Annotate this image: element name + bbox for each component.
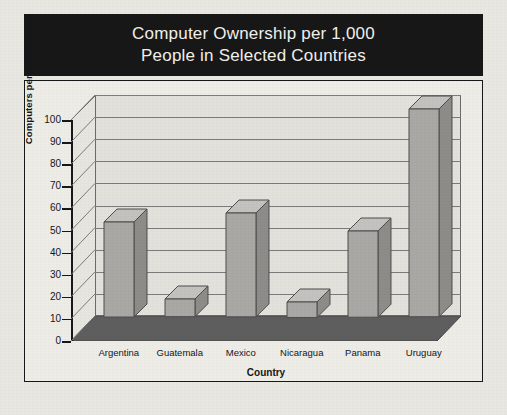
x-label-guatemala: Guatemala	[149, 347, 210, 359]
y-tick-mark	[62, 319, 71, 321]
y-tick: 70	[27, 180, 71, 192]
y-tick: 10	[27, 313, 71, 325]
chart-panel: Computers per 1,000 People 1009080706050…	[24, 80, 483, 382]
y-tick: 40	[27, 247, 71, 259]
x-axis-title: Country	[71, 367, 461, 378]
y-tick-mark	[62, 231, 71, 233]
chart-title: Computer Ownership per 1,000 People in S…	[132, 23, 375, 67]
gridline	[95, 117, 461, 118]
y-tick-mark	[62, 275, 71, 277]
chart-floor	[71, 316, 461, 341]
chart-figure: Computer Ownership per 1,000 People in S…	[24, 14, 483, 382]
y-tick-mark	[62, 186, 71, 188]
y-tick-mark	[62, 142, 71, 144]
x-label-nicaragua: Nicaragua	[271, 347, 332, 359]
y-tick-mark	[62, 164, 71, 166]
y-tick-mark	[62, 208, 71, 210]
y-tick-mark	[62, 253, 71, 255]
y-tick-label: 40	[29, 247, 61, 259]
y-tick-label: 90	[29, 136, 61, 148]
chart-title-line-2: People in Selected Countries	[132, 45, 375, 67]
y-axis-line	[71, 120, 73, 341]
gridline	[95, 139, 461, 140]
y-tick-label: 10	[29, 313, 61, 325]
y-tick: 30	[27, 269, 71, 281]
y-tick: 90	[27, 136, 71, 148]
chart-title-banner: Computer Ownership per 1,000 People in S…	[24, 14, 483, 76]
y-tick-label: 20	[29, 291, 61, 303]
y-tick: 50	[27, 225, 71, 237]
y-tick: 60	[27, 202, 71, 214]
bar-panama[interactable]	[348, 218, 378, 316]
x-label-argentina: Argentina	[88, 347, 149, 359]
bar-guatemala[interactable]	[165, 286, 195, 316]
bar-argentina[interactable]	[104, 209, 134, 316]
bar-mexico[interactable]	[226, 200, 256, 316]
y-tick: 100	[27, 114, 71, 126]
gridline	[95, 161, 461, 162]
gridline	[95, 206, 461, 207]
y-tick-label: 30	[29, 269, 61, 281]
x-label-mexico: Mexico	[210, 347, 271, 359]
y-tick-label: 70	[29, 180, 61, 192]
gridline	[95, 294, 461, 295]
y-tick-label: 80	[29, 158, 61, 170]
chart-title-line-1: Computer Ownership per 1,000	[132, 24, 375, 43]
plot-area: 1009080706050403020100 ArgentinaGuatemal…	[71, 95, 461, 367]
y-tick: 80	[27, 158, 71, 170]
gridline	[95, 183, 461, 184]
y-tick-label: 60	[29, 202, 61, 214]
y-tick-mark	[62, 120, 71, 122]
y-tick-mark	[62, 341, 71, 343]
bar-uruguay[interactable]	[409, 96, 439, 316]
gridline	[95, 95, 461, 96]
y-tick-label: 50	[29, 225, 61, 237]
x-label-panama: Panama	[332, 347, 393, 359]
y-tick: 0	[27, 335, 71, 347]
x-label-uruguay: Uruguay	[393, 347, 454, 359]
y-tick: 20	[27, 291, 71, 303]
left-depth-wall	[71, 95, 96, 341]
gridline	[95, 250, 461, 251]
gridline	[95, 272, 461, 273]
y-tick-mark	[62, 297, 71, 299]
y-tick-label: 0	[29, 335, 61, 347]
gridline	[95, 228, 461, 229]
bar-nicaragua[interactable]	[287, 289, 317, 316]
y-tick-label: 100	[29, 114, 61, 126]
